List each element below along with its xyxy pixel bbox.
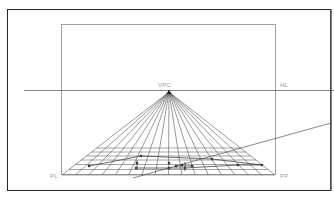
perspective-diagram xyxy=(0,0,334,198)
pl-label: PL xyxy=(50,173,58,179)
hl-label: HL xyxy=(280,82,288,88)
plotted-segments xyxy=(89,156,262,171)
pp-label: PP xyxy=(280,173,288,179)
vpc-label: VPC xyxy=(158,82,171,88)
